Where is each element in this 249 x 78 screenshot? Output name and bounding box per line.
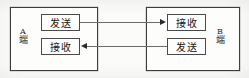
connection-b-send-to-a-receive-line [87,46,167,47]
box-b-receive[interactable]: 接收 [167,14,206,31]
box-a-send[interactable]: 发送 [41,14,80,31]
connection-a-send-to-b-receive-line [80,22,161,23]
box-b-receive-label: 接收 [176,15,197,30]
arrow-right-icon [160,19,166,25]
arrow-left-icon [81,43,87,49]
endpoint-b-label: B 端 [212,28,228,46]
box-b-send-label: 发送 [176,39,197,54]
box-a-send-label: 发送 [50,15,71,30]
endpoint-a-suffix: 端 [15,36,31,45]
box-b-send[interactable]: 发送 [167,38,206,55]
endpoint-b-suffix: 端 [212,36,228,45]
box-a-receive[interactable]: 接收 [41,38,80,55]
endpoint-a-label: A 端 [15,28,31,46]
diagram-canvas: A 端 发送 接收 B 端 接收 发送 [0,0,249,78]
box-a-receive-label: 接收 [50,39,71,54]
